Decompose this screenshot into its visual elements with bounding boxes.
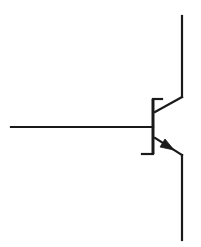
transistor-diagram: NPN bipolar junction transistor — [0, 0, 201, 247]
npn-transistor-symbol — [0, 0, 201, 247]
emitter-arrow-icon — [160, 139, 174, 150]
